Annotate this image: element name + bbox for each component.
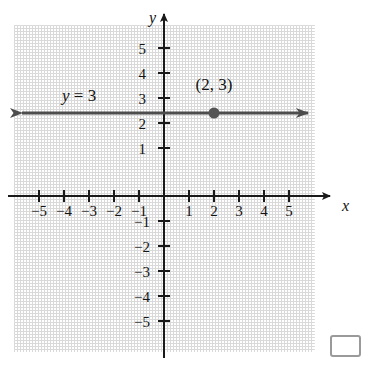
y-tick-label: −4 [134, 290, 150, 305]
x-tick-label: 4 [260, 204, 268, 219]
x-tick-label: −3 [81, 204, 97, 219]
y-tick-label: 5 [139, 42, 147, 57]
line-equation-variable: y [62, 86, 70, 105]
line-equation-label: y = 3 [62, 87, 96, 104]
x-tick-label: 5 [285, 204, 293, 219]
line-equation-rest: = 3 [70, 86, 97, 105]
point-coordinate-label: (2, 3) [196, 76, 233, 93]
x-axis-label: x [342, 198, 349, 214]
x-tick-label: 1 [185, 204, 193, 219]
y-axis-label: y [149, 10, 156, 26]
x-tick-label: 2 [210, 204, 218, 219]
answer-input-box[interactable] [330, 335, 361, 357]
plotted-point [209, 108, 220, 119]
x-tick-label: −5 [31, 204, 47, 219]
y-tick-label: 1 [139, 142, 147, 157]
coordinate-plane-graph: 5 4 3 2 1 −1 −2 −3 −4 −5 −5 −4 −3 −2 −1 … [0, 0, 367, 371]
axes-and-plot [0, 0, 367, 371]
x-tick-label: 3 [235, 204, 243, 219]
x-tick-label: −2 [106, 204, 122, 219]
y-tick-label: −2 [134, 240, 150, 255]
y-tick-label: 4 [139, 67, 147, 82]
x-tick-label: −1 [131, 204, 147, 219]
x-tick-label: −4 [56, 204, 72, 219]
y-tick-label: 2 [139, 117, 147, 132]
y-tick-label: −3 [134, 265, 150, 280]
y-tick-label: 3 [139, 92, 147, 107]
y-tick-label: −5 [134, 315, 150, 330]
